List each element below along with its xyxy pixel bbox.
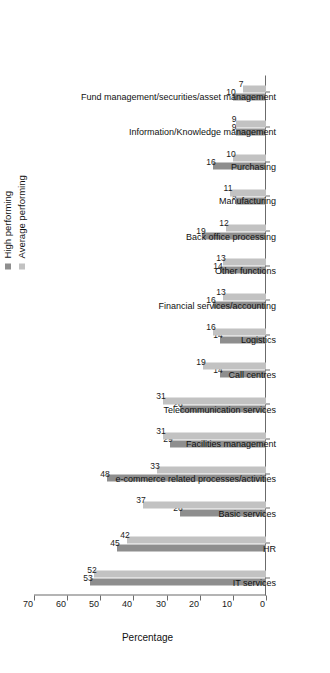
bar-average-performing: 16 [213, 328, 266, 335]
value-axis-tick [167, 595, 168, 600]
category-label-text: Call centres [228, 370, 276, 380]
value-axis-tick-label: 50 [77, 598, 99, 608]
bar-value-label: 9 [232, 113, 237, 123]
category-label-text: Purchasing [231, 162, 276, 172]
bar-value-label: 42 [120, 529, 129, 539]
value-axis-tick [100, 595, 101, 600]
bar-value-label: 48 [100, 468, 109, 478]
bar-average-performing: 31 [163, 432, 266, 439]
bar-group: 1416 [34, 318, 266, 353]
value-axis-tick-label: 0 [243, 598, 265, 608]
chart-figure: High performing Average performing 01020… [0, 0, 330, 673]
bar-value-label: 19 [196, 356, 205, 366]
bar-value-label: 11 [223, 182, 232, 192]
bar-average-performing: 7 [243, 85, 266, 92]
bar-value-label: 13 [216, 252, 225, 262]
value-axis-tick [133, 595, 134, 600]
value-axis-tick [67, 595, 68, 600]
bar-average-performing: 31 [163, 397, 266, 404]
category-label-text: Basic services [218, 508, 276, 518]
bar-value-label: 10 [226, 148, 235, 158]
value-axis-tick-label: 60 [44, 598, 66, 608]
category-label-text: Logistics [241, 335, 276, 345]
bar-average-performing: 33 [157, 466, 266, 473]
value-axis-tick-label: 30 [144, 598, 166, 608]
bar-value-label: 31 [157, 425, 166, 435]
value-axis-title: Percentage [118, 632, 178, 643]
bar-average-performing: 12 [226, 224, 266, 231]
value-axis-tick-label: 70 [11, 598, 33, 608]
bar-value-label: 12 [220, 217, 229, 227]
bar-average-performing: 37 [143, 501, 266, 508]
category-label-text: Fund management/securities/asset managem… [81, 92, 276, 102]
bar-average-performing: 13 [223, 258, 266, 265]
bar-value-label: 13 [216, 286, 225, 296]
bar-average-performing: 42 [127, 536, 266, 543]
value-axis-tick [200, 595, 201, 600]
legend-item-high-performing: High performing [2, 175, 13, 269]
bar-value-label: 16 [206, 156, 215, 166]
value-axis-tick [34, 595, 35, 600]
bar-value-label: 52 [87, 564, 96, 574]
bar-value-label: 16 [206, 321, 215, 331]
legend-swatch-icon-average-performing [19, 263, 25, 269]
category-label-text: Information/Knowledge management [129, 127, 276, 137]
category-label-text: Telecommunication services [163, 404, 276, 414]
bar-average-performing: 13 [223, 293, 266, 300]
category-label-text: Financial services/accounting [158, 300, 276, 310]
bar-high-performing: 45 [117, 544, 266, 551]
bar-average-performing: 11 [230, 189, 266, 196]
bar-value-label: 37 [137, 494, 146, 504]
category-label-text: e-commerce related processes/activities [115, 474, 276, 484]
legend-label-average-performing: Average performing [16, 175, 27, 258]
chart-legend: High performing Average performing [2, 175, 27, 269]
category-label-text: Manufacturing [219, 196, 276, 206]
bar-value-label: 33 [150, 460, 159, 470]
value-axis-tick-label: 20 [177, 598, 199, 608]
value-axis-tick [266, 595, 267, 600]
legend-item-average-performing: Average performing [16, 175, 27, 269]
value-axis-tick-label: 10 [210, 598, 232, 608]
category-label-text: IT services [233, 578, 276, 588]
category-label-text: Back office processing [186, 231, 276, 241]
bar-group: 5352 [34, 560, 266, 595]
bar-average-performing: 19 [203, 362, 266, 369]
bar-group: 4542 [34, 526, 266, 561]
category-label-text: HR [263, 543, 276, 553]
category-label-text: Other functions [215, 266, 276, 276]
bar-average-performing: 10 [233, 154, 266, 161]
bar-value-label: 7 [238, 78, 243, 88]
bar-value-label: 31 [157, 390, 166, 400]
plot-area: 010203040506070 Percentage 5352454226374… [34, 75, 266, 595]
value-axis-tick-label: 40 [110, 598, 132, 608]
bar-value-label: 45 [110, 537, 119, 547]
bar-average-performing: 52 [94, 570, 266, 577]
category-label-text: Facilities management [186, 439, 276, 449]
value-axis-tick [233, 595, 234, 600]
bar-average-performing: 9 [236, 120, 266, 127]
legend-swatch-icon-high-performing [5, 263, 11, 269]
legend-label-high-performing: High performing [2, 190, 13, 258]
